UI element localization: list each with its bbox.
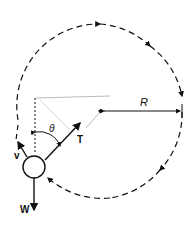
support-lines [36,96,110,130]
angle-label: θ [49,123,55,134]
tension-label: T [77,134,83,145]
ball [23,156,45,178]
velocity-label: v [14,150,20,161]
weight-label: W [20,204,30,215]
radius-label: R [140,96,148,108]
radius-dimension: R [99,96,183,118]
circular-motion-diagram: R θ T v W [0,0,194,230]
angle-arc [35,132,60,146]
